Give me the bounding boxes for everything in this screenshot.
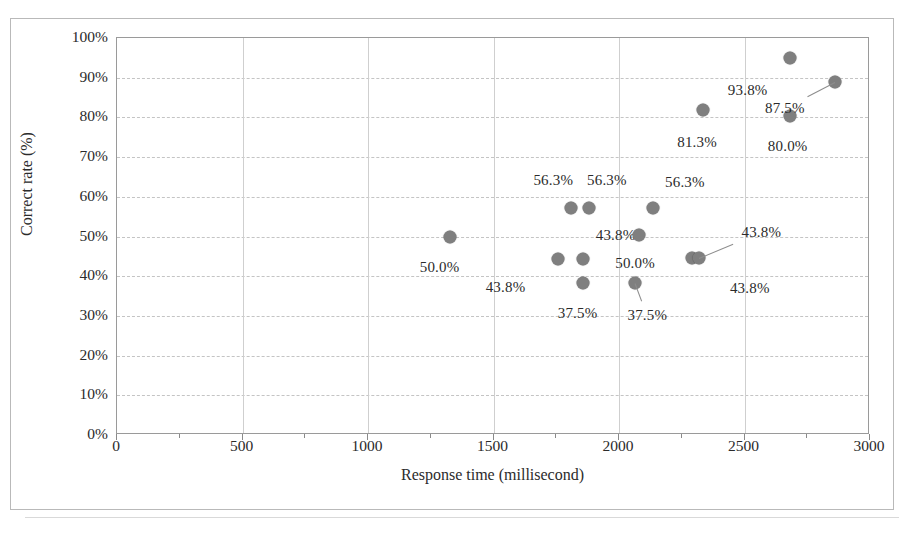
plot-area: 50.0%43.8%56.3%56.3%43.8%37.5%37.5%50.0%… xyxy=(116,37,869,434)
y-axis-tick-label: 40% xyxy=(80,266,108,284)
vertical-gridline xyxy=(243,38,244,433)
x-axis-tick-mark xyxy=(869,434,870,440)
vertical-gridline xyxy=(494,38,495,433)
data-point[interactable] xyxy=(443,230,456,243)
data-point-label: 43.8% xyxy=(730,279,770,296)
horizontal-gridline xyxy=(117,395,868,396)
horizontal-gridline xyxy=(117,276,868,277)
data-point-label: 87.5% xyxy=(765,99,805,116)
x-axis-tick-labels: 050010001500200025003000 xyxy=(116,437,869,463)
data-point-label: 43.8% xyxy=(486,278,526,295)
y-axis-tick-label: 20% xyxy=(80,346,108,364)
data-point-label: 50.0% xyxy=(615,254,655,271)
x-axis-minor-tick-mark xyxy=(555,434,556,438)
y-axis-tick-label: 0% xyxy=(87,425,108,443)
data-point[interactable] xyxy=(551,252,564,265)
data-point-label: 80.0% xyxy=(768,138,808,155)
horizontal-gridline xyxy=(117,356,868,357)
data-point-label: 50.0% xyxy=(420,258,460,275)
data-point[interactable] xyxy=(576,276,589,289)
horizontal-gridline xyxy=(117,117,868,118)
data-point-label: 56.3% xyxy=(665,173,705,190)
horizontal-gridline xyxy=(117,157,868,158)
y-axis-tick-label: 100% xyxy=(72,28,108,46)
x-axis-minor-tick-mark xyxy=(179,434,180,438)
y-axis-tick-label: 80% xyxy=(80,107,108,125)
y-axis-tick-label: 70% xyxy=(80,147,108,165)
y-axis-tick-label: 90% xyxy=(80,68,108,86)
x-axis-tick-mark xyxy=(618,434,619,440)
data-point-label: 81.3% xyxy=(677,134,717,151)
x-axis-minor-tick-mark xyxy=(806,434,807,438)
horizontal-gridline xyxy=(117,316,868,317)
horizontal-gridline xyxy=(117,78,868,79)
label-leader-line xyxy=(807,82,835,97)
y-axis-tick-label: 10% xyxy=(80,385,108,403)
x-axis-minor-tick-mark xyxy=(681,434,682,438)
data-point[interactable] xyxy=(646,201,659,214)
y-axis-tick-label: 30% xyxy=(80,306,108,324)
y-axis-tick-labels: 0%10%20%30%40%50%60%70%80%90%100% xyxy=(0,0,116,397)
data-point[interactable] xyxy=(576,252,589,265)
x-axis-minor-tick-mark xyxy=(430,434,431,438)
data-point-label: 56.3% xyxy=(587,171,627,188)
x-axis-tick-mark xyxy=(242,434,243,440)
scatter-chart: Correct rate (%) 0%10%20%30%40%50%60%70%… xyxy=(0,0,905,535)
y-axis-tick-label: 60% xyxy=(80,187,108,205)
data-point[interactable] xyxy=(783,51,796,64)
vertical-gridline xyxy=(368,38,369,433)
data-point[interactable] xyxy=(565,201,578,214)
data-point-label: 43.8% xyxy=(741,223,781,240)
data-point-label: 43.8% xyxy=(596,226,636,243)
x-axis-tick-mark xyxy=(493,434,494,440)
horizontal-gridline xyxy=(117,197,868,198)
data-point-label: 93.8% xyxy=(728,81,768,98)
x-axis-title: Response time (millisecond) xyxy=(116,466,869,484)
y-axis-tick-label: 50% xyxy=(80,227,108,245)
data-point-label: 37.5% xyxy=(558,304,598,321)
data-point[interactable] xyxy=(697,104,710,117)
x-axis-tick-mark xyxy=(367,434,368,440)
data-point-label: 56.3% xyxy=(533,171,573,188)
data-point[interactable] xyxy=(633,228,646,241)
data-point[interactable] xyxy=(582,201,595,214)
x-axis-minor-tick-mark xyxy=(304,434,305,438)
data-point-label: 37.5% xyxy=(627,306,667,323)
x-axis-tick-mark xyxy=(744,434,745,440)
label-leader-line xyxy=(699,243,733,258)
x-axis-tick-mark xyxy=(116,434,117,440)
